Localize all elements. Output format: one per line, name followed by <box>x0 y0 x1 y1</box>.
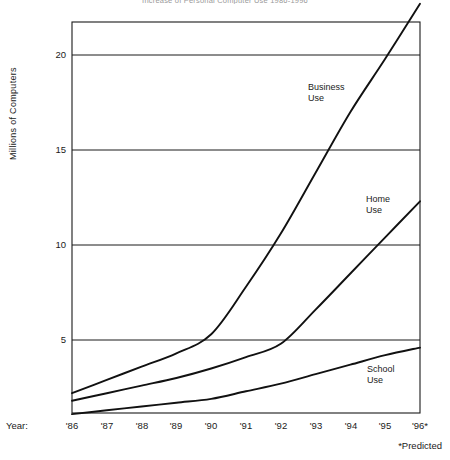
x-tick-89: '89 <box>170 420 182 431</box>
chart-container: Increase of Personal Computer Use 1986-1… <box>0 0 450 460</box>
x-tick-88: '88 <box>136 420 148 431</box>
x-tick-96: '96* <box>412 420 428 431</box>
x-tick-86: '86 <box>66 420 78 431</box>
series-label-business: Business Use <box>308 82 345 104</box>
x-tick-90: '90 <box>205 420 217 431</box>
x-tick-87: '87 <box>101 420 113 431</box>
x-axis-ticks: Year: '86 '87 '88 '89 '90 '91 '92 '93 '9… <box>0 420 450 434</box>
x-tick-92: '92 <box>275 420 287 431</box>
x-tick-91: '91 <box>240 420 252 431</box>
x-axis-label: Year: <box>6 420 28 431</box>
plot-area <box>0 0 450 460</box>
series-label-home: Home Use <box>366 194 390 216</box>
x-tick-95: '95 <box>379 420 391 431</box>
series-label-school: School Use <box>367 364 395 386</box>
x-tick-94: '94 <box>345 420 357 431</box>
plot-frame <box>72 22 420 413</box>
footnote-predicted: *Predicted <box>398 440 442 451</box>
x-tick-93: '93 <box>310 420 322 431</box>
